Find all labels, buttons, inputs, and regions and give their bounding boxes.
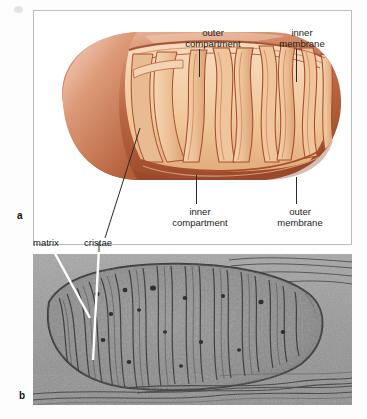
label-cristae: cristae — [84, 237, 112, 248]
label-line-2: membrane — [262, 217, 338, 228]
label-outer-compartment: outer compartment — [174, 27, 252, 49]
label-line-1: outer — [262, 206, 338, 217]
panel-letter-b: b — [19, 390, 25, 401]
label-line-2: compartment — [160, 217, 240, 228]
label-matrix: matrix — [33, 237, 59, 248]
label-line-1: outer — [174, 27, 252, 38]
label-inner-membrane: inner membrane — [266, 27, 338, 49]
label-outer-membrane: outer membrane — [262, 206, 338, 228]
panel-letter-a: a — [17, 210, 23, 221]
label-line-2: compartment — [174, 38, 252, 49]
micrograph-pointer-lines — [0, 230, 367, 380]
label-inner-compartment: inner compartment — [160, 206, 240, 228]
label-line-2: membrane — [266, 38, 338, 49]
label-line-1: inner — [160, 206, 240, 217]
mitochondrion-figure: outer compartment inner membrane inner c… — [0, 0, 367, 419]
label-line-1: inner — [266, 27, 338, 38]
